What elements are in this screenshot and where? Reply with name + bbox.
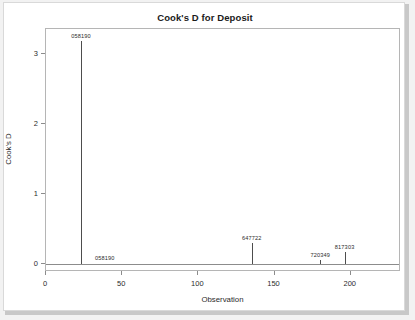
x-axis-tick [45,271,46,275]
point-label: 058190 [95,255,115,261]
x-axis-tick-label: 0 [43,279,47,288]
x-axis-tick-label: 150 [267,279,280,288]
x-axis-tick-label: 50 [117,279,125,288]
point-label: 647722 [242,235,262,241]
chart-title: Cook's D for Deposit [4,12,406,23]
plot-inner: 058190058190647722720349817303 [46,29,399,270]
data-needle [345,252,346,263]
data-needle [252,243,253,264]
baseline-reference-line [46,264,399,265]
y-axis-tick [41,123,45,124]
point-label: 817303 [335,244,355,250]
point-label: 058190 [71,33,91,39]
x-axis-title: Observation [45,295,400,304]
x-axis-tick [197,271,198,275]
y-axis-tick-label: 0 [25,258,38,267]
y-axis-tick-label: 3 [25,48,38,57]
x-axis-tick-label: 100 [191,279,204,288]
data-needle [320,260,321,264]
x-axis-tick-label: 200 [343,279,356,288]
figure-window: Cook's D for Deposit 0581900581906477227… [0,0,415,320]
y-axis-tick-label: 1 [25,188,38,197]
y-axis-title: Cook's D [4,133,13,164]
x-axis-tick [121,271,122,275]
point-label: 720349 [310,252,330,258]
data-needle [81,41,82,264]
y-axis-tick-label: 2 [25,118,38,127]
plot-area: 058190058190647722720349817303 [45,28,400,271]
x-axis-tick [350,271,351,275]
chart-panel: Cook's D for Deposit 0581900581906477227… [3,2,405,311]
y-axis-tick [41,263,45,264]
y-axis-tick [41,53,45,54]
y-axis-tick [41,193,45,194]
x-axis-tick [274,271,275,275]
